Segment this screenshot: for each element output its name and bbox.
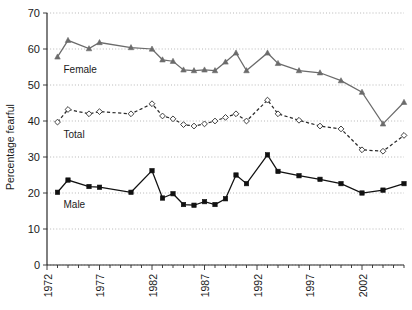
- series-marker-male: [223, 197, 227, 201]
- series-line-total: [58, 100, 405, 151]
- series-marker-total: [233, 111, 239, 117]
- x-tick-label: 1997: [304, 274, 316, 298]
- series-marker-male: [55, 190, 59, 194]
- y-tick-label: 10: [28, 223, 40, 235]
- y-tick-label: 0: [34, 259, 40, 271]
- series-marker-male: [213, 202, 217, 206]
- x-tick-labels-group: 1972197719821987199219972002: [42, 274, 369, 298]
- series-marker-male: [160, 196, 164, 200]
- series-marker-total: [380, 148, 386, 154]
- data-series-group: [55, 37, 407, 207]
- series-marker-male: [129, 190, 133, 194]
- y-tick-label: 40: [28, 115, 40, 127]
- y-tick-label: 50: [28, 79, 40, 91]
- y-tick-label: 30: [28, 151, 40, 163]
- series-marker-male: [234, 173, 238, 177]
- series-marker-total: [181, 122, 187, 128]
- series-marker-total: [97, 109, 103, 115]
- series-marker-male: [381, 188, 385, 192]
- series-marker-total: [244, 118, 250, 124]
- series-marker-total: [296, 117, 302, 123]
- series-marker-total: [191, 123, 197, 129]
- y-axis-title: Percentage fearful: [4, 104, 16, 190]
- series-marker-total: [338, 126, 344, 132]
- series-marker-male: [192, 203, 196, 207]
- series-marker-total: [160, 113, 166, 119]
- x-tick-label: 1977: [94, 274, 106, 298]
- series-marker-male: [318, 177, 322, 181]
- series-marker-total: [401, 133, 407, 139]
- series-line-female: [58, 40, 405, 124]
- series-marker-male: [202, 199, 206, 203]
- series-marker-male: [244, 181, 248, 185]
- series-marker-male: [339, 181, 343, 185]
- series-marker-male: [360, 191, 364, 195]
- x-tick-label: 2002: [357, 274, 369, 298]
- x-tick-label: 1987: [199, 274, 211, 298]
- series-marker-total: [149, 101, 155, 107]
- series-line-male: [58, 155, 405, 205]
- gridlines-group: [47, 13, 404, 265]
- x-tick-label: 1982: [147, 274, 159, 298]
- series-label-female: Female: [64, 64, 98, 75]
- line-chart: 010203040506070 197219771982198719921997…: [0, 0, 412, 310]
- series-marker-male: [265, 153, 269, 157]
- series-marker-female: [97, 40, 103, 45]
- series-inline-labels-group: FemaleTotalMale: [64, 64, 98, 210]
- series-marker-total: [223, 115, 229, 121]
- y-tick-labels-group: 010203040506070: [28, 7, 40, 271]
- x-tick-label: 1972: [42, 274, 54, 298]
- series-marker-male: [402, 181, 406, 185]
- series-marker-male: [66, 178, 70, 182]
- series-label-male: Male: [64, 199, 86, 210]
- series-marker-male: [97, 185, 101, 189]
- chart-container: 010203040506070 197219771982198719921997…: [0, 0, 412, 310]
- series-marker-total: [86, 111, 92, 117]
- series-marker-male: [297, 174, 301, 178]
- y-tick-label: 70: [28, 7, 40, 19]
- series-marker-total: [212, 118, 218, 124]
- series-marker-male: [87, 184, 91, 188]
- series-label-total: Total: [64, 129, 85, 140]
- series-marker-female: [65, 37, 71, 42]
- series-marker-female: [265, 50, 271, 55]
- series-marker-total: [317, 123, 323, 129]
- y-tick-label: 20: [28, 187, 40, 199]
- series-marker-male: [276, 169, 280, 173]
- axes-group: [43, 13, 404, 270]
- series-marker-total: [128, 111, 134, 117]
- series-marker-male: [150, 168, 154, 172]
- series-marker-female: [233, 50, 239, 55]
- series-marker-male: [171, 192, 175, 196]
- series-marker-total: [202, 121, 208, 127]
- x-tick-label: 1992: [252, 274, 264, 298]
- series-marker-male: [181, 202, 185, 206]
- series-marker-female: [401, 99, 407, 104]
- y-tick-label: 60: [28, 43, 40, 55]
